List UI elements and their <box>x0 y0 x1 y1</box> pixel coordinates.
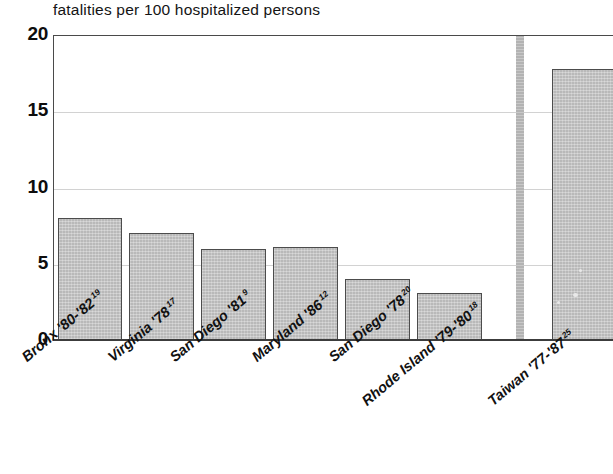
bar <box>552 69 613 340</box>
scan-speck <box>573 293 578 297</box>
category-separator-band <box>516 35 524 340</box>
y-tick-label: 15 <box>0 99 48 121</box>
y-axis-tick-labels: 20151050 <box>0 0 48 474</box>
gridline <box>54 189 613 190</box>
x-axis-label-text: Taiwan '77-'87 <box>485 335 569 409</box>
plot-area <box>53 35 613 340</box>
y-tick-label: 5 <box>0 252 48 274</box>
y-tick-label: 10 <box>0 176 48 198</box>
scan-speck <box>579 269 582 272</box>
chart-title: fatalities per 100 hospitalized persons <box>53 1 320 19</box>
y-tick-label: 20 <box>0 23 48 45</box>
scan-speck <box>557 301 560 304</box>
gridline <box>54 112 613 113</box>
bar-chart-figure: fatalities per 100 hospitalized persons … <box>0 0 613 474</box>
